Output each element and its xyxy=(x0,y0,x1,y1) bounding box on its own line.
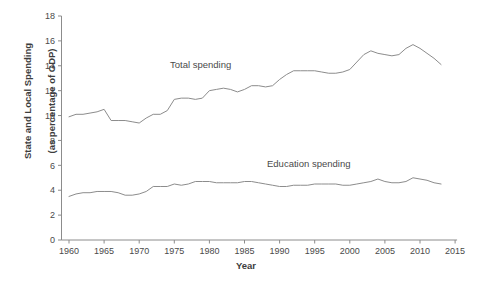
x-tick-label: 1980 xyxy=(199,246,219,256)
series-line-total-spending xyxy=(69,45,441,123)
y-axis-title-line2: (as percentage of GDP) xyxy=(46,48,57,153)
y-tick-label: 2 xyxy=(50,210,55,220)
x-tick-label: 1990 xyxy=(270,246,290,256)
series-label-education-spending: Education spending xyxy=(267,158,350,169)
x-tick-label: 2005 xyxy=(375,246,395,256)
y-axis-title-line1: State and Local Spending xyxy=(22,43,33,159)
series-label-total-spending: Total spending xyxy=(170,59,231,70)
x-tick-label: 1960 xyxy=(59,246,79,256)
line-chart-plot: 024681012141618 196019651970197519801985… xyxy=(0,0,492,281)
x-tick-label: 1985 xyxy=(234,246,254,256)
y-tick-label: 0 xyxy=(50,235,55,245)
series-line-education-spending xyxy=(69,178,441,197)
data-series-group xyxy=(69,45,441,197)
y-axis-title: State and Local Spending (as percentage … xyxy=(10,1,58,201)
chart-container: 024681012141618 196019651970197519801985… xyxy=(0,0,492,281)
x-tick-label: 1995 xyxy=(305,246,325,256)
x-tick-label: 1975 xyxy=(164,246,184,256)
x-axis: 1960196519701975198019851990199520002005… xyxy=(59,240,465,256)
x-tick-label: 2010 xyxy=(410,246,430,256)
x-axis-title: Year xyxy=(0,260,492,271)
x-tick-label: 1970 xyxy=(129,246,149,256)
x-tick-label: 2000 xyxy=(340,246,360,256)
x-tick-label: 1965 xyxy=(94,246,114,256)
x-tick-label: 2015 xyxy=(445,246,465,256)
